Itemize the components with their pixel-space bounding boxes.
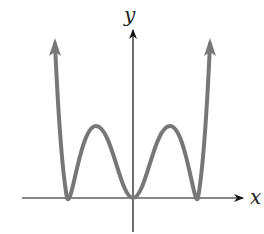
function-graph: y x (0, 0, 264, 234)
x-axis-label: x (250, 185, 261, 209)
y-axis-label: y (123, 3, 136, 27)
